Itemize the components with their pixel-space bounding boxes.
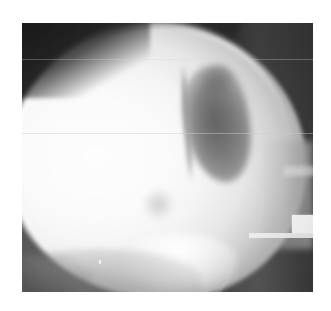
marker-strip: [249, 233, 313, 237]
collimation-corner-top-left: [22, 23, 150, 98]
marker-glow: [284, 166, 313, 177]
lucent-defect-tip: [202, 66, 231, 96]
page-root: [0, 0, 331, 311]
radiographic-marker: [292, 215, 313, 233]
film-seam-upper: [22, 59, 313, 60]
collimation-corner-bottom-left: [22, 254, 92, 292]
film-seam-middle: [22, 133, 313, 134]
bright-speck: [99, 260, 101, 264]
lateral-skull-radiograph[interactable]: [22, 23, 313, 292]
